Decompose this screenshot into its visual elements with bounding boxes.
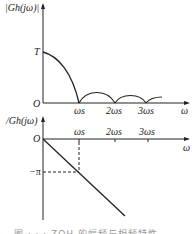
y-axis-arrow-icon [41,3,45,9]
phase-y-axis-arrow-icon [41,116,45,122]
neg-pi-label: −π [30,167,41,177]
t-tick-label: T [34,47,40,57]
3ws-label-bottom: 3ωs [139,127,155,137]
side-lobe-3-curve [146,97,162,103]
main-lobe-curve [43,52,79,103]
2ws-label-bottom: 2ωs [106,127,122,137]
side-lobe-2-curve [115,96,146,104]
ws-label-top: ωs [74,106,85,116]
omega-label-top: ω [181,106,188,116]
origin-label-top: O [33,99,40,109]
3ws-label-top: 3ωs [138,106,154,116]
phase-x-axis-arrow-icon [184,137,190,141]
magnitude-axis-label: |Gh(jω)| [5,3,39,13]
figure-caption: 图 · · · ZOH 的幅频与相频特性 [14,227,158,234]
phase-axis-label: /Gh(jω) [6,116,38,126]
omega-label-bottom: ω [183,143,190,153]
side-lobe-1-curve [79,92,115,103]
phase-line [43,139,125,216]
origin-label-bottom: O [33,134,40,144]
2ws-label-top: 2ωs [106,106,122,116]
magnitude-plot [41,3,190,105]
ws-label-bottom: ωs [74,127,85,137]
